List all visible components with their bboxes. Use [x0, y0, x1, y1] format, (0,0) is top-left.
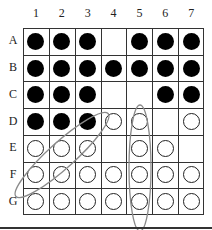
annotation-overlay	[0, 0, 212, 230]
vertical-ellipse-annotation	[129, 105, 151, 230]
diagonal-ellipse-annotation	[7, 104, 117, 206]
bottom-rule	[0, 227, 212, 229]
